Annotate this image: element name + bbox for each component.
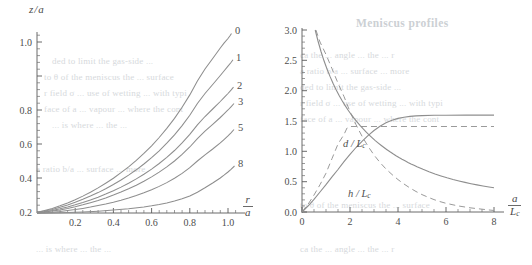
right-plot-panel: 0.0 0.5 1.0 1.5 2.0 2.5 3.0 0 2 4 6 8 bbox=[266, 0, 532, 265]
right-x-axis-label: a Lc bbox=[508, 193, 521, 218]
curve-label-h-sub: c bbox=[367, 191, 370, 200]
left-curve-1 bbox=[37, 60, 233, 213]
curve-label-2: 2 bbox=[237, 80, 242, 91]
left-y-axis-label-den: a bbox=[38, 3, 44, 15]
right-x-tick: 4 bbox=[396, 216, 401, 227]
left-y-major-ticks bbox=[37, 42, 42, 212]
curve-label-d-sub: c bbox=[362, 141, 365, 150]
right-y-tick: 2.5 bbox=[285, 55, 298, 66]
curve-label-0: 0 bbox=[235, 25, 240, 36]
right-y-major-ticks bbox=[302, 30, 307, 212]
right-x-axis-label-den-sub: c bbox=[516, 209, 519, 218]
curve-label-h-over-lc: h / Lc bbox=[348, 188, 371, 200]
curve-label-1: 1 bbox=[236, 52, 241, 63]
left-y-tick: 0.8 bbox=[20, 105, 33, 116]
curve-label-d-text: d / L bbox=[343, 138, 362, 149]
curve-label-h-text: h / L bbox=[348, 188, 367, 199]
right-x-tick: 0 bbox=[300, 216, 305, 227]
left-curve-5 bbox=[37, 130, 234, 214]
left-y-tick: 0.2 bbox=[20, 207, 33, 218]
left-x-tick: 1.0 bbox=[222, 217, 235, 228]
curve-label-d-over-lc: d / Lc bbox=[343, 138, 366, 150]
right-x-tick-labels: 0 2 4 6 8 bbox=[300, 216, 497, 227]
left-y-tick: 1.0 bbox=[20, 37, 33, 48]
left-x-axis-label-num: r bbox=[243, 194, 253, 206]
left-x-tick: 0.6 bbox=[145, 217, 158, 228]
right-y-tick: 0.5 bbox=[285, 176, 298, 187]
right-y-tick: 2.0 bbox=[285, 85, 298, 96]
left-x-tick-labels: 0.2 0.4 0.6 0.8 1.0 bbox=[69, 217, 234, 228]
right-curve-d bbox=[302, 115, 494, 212]
right-y-tick: 0.0 bbox=[285, 207, 298, 218]
right-x-axis-label-den: Lc bbox=[508, 205, 521, 218]
figure-container: Meniscus profiles ded to limit the gas-s… bbox=[0, 0, 532, 265]
left-y-tick-labels: 0.2 0.4 0.6 0.8 1.0 bbox=[20, 37, 33, 218]
left-x-axis-label-den: a bbox=[243, 206, 253, 219]
right-x-tick: 6 bbox=[444, 216, 449, 227]
left-x-tick: 0.2 bbox=[69, 217, 82, 228]
right-x-major-ticks bbox=[302, 207, 494, 212]
left-plot-panel: 0.2 0.4 0.6 0.8 1.0 0.2 0.4 0.6 0.8 1.0 bbox=[0, 0, 266, 265]
curve-label-5: 5 bbox=[238, 122, 243, 133]
right-x-tick: 2 bbox=[348, 216, 353, 227]
right-plot-svg: 0.0 0.5 1.0 1.5 2.0 2.5 3.0 0 2 4 6 8 bbox=[266, 0, 532, 265]
left-curves bbox=[37, 34, 235, 214]
left-y-tick: 0.4 bbox=[20, 173, 33, 184]
left-x-tick: 0.8 bbox=[184, 217, 197, 228]
right-x-axis-label-num: a bbox=[508, 193, 521, 205]
curve-label-8: 8 bbox=[238, 158, 243, 169]
left-axis-lines bbox=[37, 32, 245, 213]
left-curve-2 bbox=[37, 87, 234, 213]
left-plot-svg: 0.2 0.4 0.6 0.8 1.0 0.2 0.4 0.6 0.8 1.0 bbox=[0, 0, 266, 265]
right-x-tick: 8 bbox=[492, 216, 497, 227]
left-x-tick: 0.4 bbox=[107, 217, 120, 228]
left-y-axis-label: z / a bbox=[29, 3, 44, 15]
right-y-tick-labels: 0.0 0.5 1.0 1.5 2.0 2.5 3.0 bbox=[285, 25, 298, 218]
left-curve-8 bbox=[37, 166, 235, 213]
right-curve-d-asymptote bbox=[302, 127, 494, 213]
left-curve-3 bbox=[37, 104, 234, 213]
right-y-tick: 1.5 bbox=[285, 116, 298, 127]
left-curve-0 bbox=[37, 34, 232, 213]
right-y-tick: 3.0 bbox=[285, 25, 298, 36]
curve-label-3: 3 bbox=[238, 96, 243, 107]
left-x-axis-label: r a bbox=[243, 194, 253, 218]
left-y-tick: 0.6 bbox=[20, 139, 33, 150]
right-y-tick: 1.0 bbox=[285, 146, 298, 157]
right-axis-lines bbox=[302, 28, 504, 213]
